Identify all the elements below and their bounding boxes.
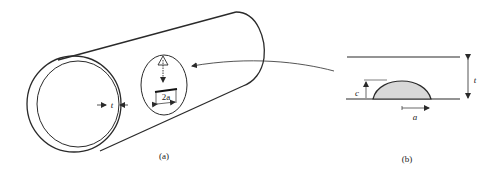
panel-b: c t a (b) — [346, 57, 477, 164]
pipe-crack-diagram: t 2a (a) c t a (b) — [0, 0, 495, 173]
crack-detail-circle — [141, 55, 187, 115]
crack-dim-arrow — [157, 102, 175, 104]
semi-elliptical-crack — [373, 81, 431, 99]
pipe-bottom-edge — [100, 86, 243, 151]
thickness-label-a: t — [111, 100, 114, 110]
thickness-label-b: t — [474, 75, 477, 85]
half-length-label: a — [413, 112, 418, 122]
crack-depth-label: c — [355, 88, 359, 98]
pipe-end-cap — [236, 12, 264, 86]
crack-length-label: 2a — [162, 92, 171, 102]
pipe-outer-wall — [27, 56, 121, 152]
pipe-top-edge — [58, 12, 236, 60]
panel-a: t 2a (a) — [27, 12, 264, 161]
panel-a-caption: (a) — [159, 151, 169, 161]
panel-b-caption: (b) — [402, 154, 413, 164]
pipe-inner-wall — [37, 61, 119, 147]
